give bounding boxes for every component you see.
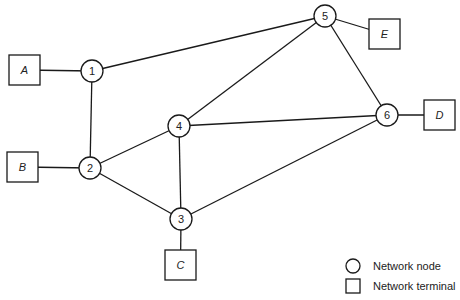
network-diagram: 123456 ABCDE Network node Network termin… — [0, 0, 460, 300]
legend-square-icon — [346, 279, 360, 293]
terminal-label: B — [19, 161, 26, 173]
terminal-links-layer — [23, 16, 440, 265]
legend-item-terminal: Network terminal — [346, 279, 456, 293]
link-1-2 — [90, 71, 92, 168]
link-4-6 — [179, 115, 387, 126]
link-4-5 — [179, 16, 325, 126]
legend-label-terminal: Network terminal — [373, 280, 456, 292]
node-5: 5 — [314, 5, 336, 27]
terminal-label: E — [381, 28, 389, 40]
terminal-D: D — [424, 100, 455, 130]
legend: Network node Network terminal — [346, 259, 456, 293]
link-1-5 — [92, 16, 325, 71]
terminals-layer: ABCDE — [7, 19, 455, 280]
node-3: 3 — [170, 208, 192, 230]
node-6: 6 — [376, 104, 398, 126]
node-label: 1 — [89, 65, 95, 77]
terminal-B: B — [7, 152, 38, 182]
node-label: 5 — [322, 10, 328, 22]
node-label: 4 — [176, 120, 182, 132]
link-3-6 — [181, 115, 387, 219]
node-4: 4 — [168, 115, 190, 137]
terminal-A: A — [9, 55, 40, 85]
link-4-3 — [179, 126, 181, 219]
legend-circle-icon — [346, 259, 360, 273]
node-2: 2 — [79, 157, 101, 179]
terminal-label: C — [177, 259, 185, 271]
terminal-label: D — [436, 109, 444, 121]
node-label: 2 — [87, 162, 93, 174]
legend-label-node: Network node — [373, 260, 441, 272]
link-2-3 — [90, 168, 181, 219]
links-layer — [90, 16, 387, 219]
link-2-4 — [90, 126, 179, 168]
legend-item-node: Network node — [346, 259, 441, 273]
terminal-C: C — [165, 250, 196, 280]
node-label: 3 — [178, 213, 184, 225]
terminal-label: A — [20, 64, 28, 76]
node-label: 6 — [384, 109, 390, 121]
node-1: 1 — [81, 60, 103, 82]
terminal-E: E — [369, 19, 400, 49]
